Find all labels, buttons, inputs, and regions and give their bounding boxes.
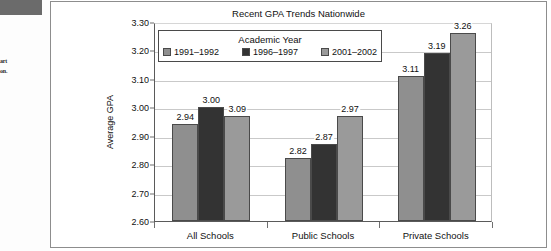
bar[interactable]: 2.87	[311, 144, 337, 221]
y-tick-mark	[150, 51, 154, 52]
bar-value-label: 3.09	[228, 104, 248, 114]
bar-group: 3.113.193.26	[380, 24, 493, 221]
x-category-label: All Schools	[187, 230, 234, 241]
scan-artifact-block	[0, 0, 42, 15]
margin-text-fragment: on.	[0, 68, 7, 74]
y-tick-label: 3.00	[131, 103, 149, 113]
bar[interactable]: 3.11	[398, 76, 424, 221]
y-tick-label: 3.20	[131, 46, 149, 56]
bar-value-label: 3.00	[202, 95, 222, 105]
y-tick-label: 2.60	[131, 217, 149, 227]
bar-cluster: 3.113.193.26	[398, 24, 476, 221]
x-tick-mark	[267, 222, 268, 228]
bar-value-label: 3.11	[401, 64, 420, 74]
page-margin: art on.	[0, 0, 50, 251]
chart-figure: Recent GPA Trends Nationwide Average GPA…	[50, 1, 547, 248]
legend-label: 2001–2002	[332, 47, 377, 57]
chart-title: Recent GPA Trends Nationwide	[51, 8, 546, 19]
x-category-label: Public Schools	[292, 230, 354, 241]
legend-swatch-icon	[163, 48, 171, 56]
y-tick-label: 3.30	[131, 18, 149, 28]
bar[interactable]: 2.82	[285, 158, 311, 221]
bar[interactable]: 2.94	[172, 124, 198, 221]
x-tick-mark	[492, 222, 493, 228]
bar[interactable]: 3.09	[224, 116, 250, 221]
legend-swatch-icon	[321, 48, 329, 56]
y-tick-mark	[150, 136, 154, 137]
y-tick-mark	[150, 23, 154, 24]
y-tick-label: 2.70	[131, 189, 149, 199]
legend-items: 1991–19921996–19972001–2002	[163, 47, 377, 57]
margin-text-fragment: art	[0, 58, 7, 64]
y-axis-tick-labels: 3.303.203.103.002.902.802.702.60	[117, 23, 149, 222]
y-axis-title: Average GPA	[105, 95, 115, 149]
bar[interactable]: 3.19	[424, 53, 450, 221]
chart-legend: Academic Year 1991–19921996–19972001–200…	[158, 30, 382, 62]
legend-title: Academic Year	[163, 34, 377, 45]
y-tick-mark	[150, 108, 154, 109]
bar-value-label: 2.97	[340, 104, 360, 114]
y-tick-label: 3.10	[131, 75, 149, 85]
bar-value-label: 2.94	[176, 112, 196, 122]
legend-swatch-icon	[242, 48, 250, 56]
legend-item[interactable]: 2001–2002	[321, 47, 377, 57]
x-category-label: Private Schools	[403, 230, 469, 241]
bar[interactable]: 3.00	[198, 107, 224, 221]
y-tick-mark	[150, 165, 154, 166]
legend-label: 1991–1992	[174, 47, 219, 57]
bar-value-label: 3.19	[427, 41, 447, 51]
x-tick-mark	[154, 222, 155, 228]
bar-value-label: 2.82	[288, 146, 308, 156]
bar-value-label: 3.26	[453, 21, 473, 31]
y-tick-label: 2.80	[131, 160, 149, 170]
bar-value-label: 2.87	[314, 132, 334, 142]
y-tick-label: 2.90	[131, 132, 149, 142]
bar[interactable]: 3.26	[450, 33, 476, 221]
x-tick-mark	[379, 222, 380, 228]
bar[interactable]: 2.97	[337, 116, 363, 221]
legend-item[interactable]: 1991–1992	[163, 47, 219, 57]
y-tick-mark	[150, 79, 154, 80]
y-tick-mark	[150, 193, 154, 194]
legend-item[interactable]: 1996–1997	[242, 47, 298, 57]
legend-label: 1996–1997	[253, 47, 298, 57]
